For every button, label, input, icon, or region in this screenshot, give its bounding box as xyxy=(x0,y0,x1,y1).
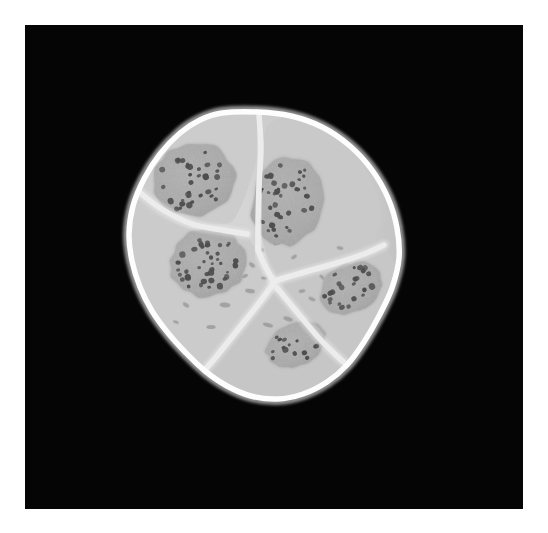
film-grain-overlay xyxy=(100,90,430,420)
embryo-cluster xyxy=(100,90,430,420)
embryo-micrograph-image xyxy=(0,0,548,533)
figure-root: Cross-section of a five-celled embryo sh… xyxy=(0,0,548,533)
